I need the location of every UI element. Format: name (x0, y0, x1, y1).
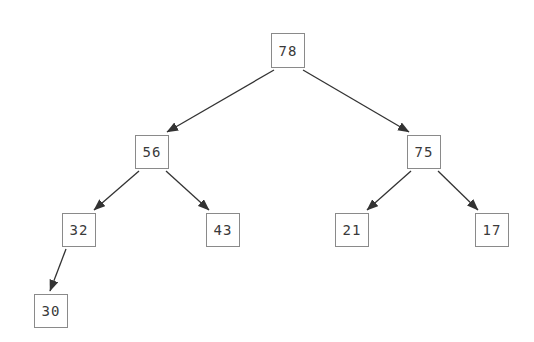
tree-edge-78-to-56 (167, 70, 274, 132)
tree-edge-56-to-32 (94, 171, 139, 210)
tree-node-label: 43 (214, 223, 233, 237)
tree-node-56[interactable]: 56 (135, 135, 169, 169)
tree-node-label: 17 (483, 223, 502, 237)
tree-node-21[interactable]: 21 (335, 213, 369, 247)
edge-layer (0, 0, 534, 342)
tree-node-label: 56 (143, 145, 162, 159)
tree-node-78[interactable]: 78 (271, 33, 305, 68)
tree-node-17[interactable]: 17 (475, 213, 509, 247)
tree-node-75[interactable]: 75 (407, 135, 441, 169)
tree-edge-75-to-21 (367, 171, 411, 210)
tree-node-30[interactable]: 30 (34, 294, 68, 328)
tree-edge-32-to-30 (50, 249, 66, 291)
tree-node-label: 75 (415, 145, 434, 159)
tree-node-label: 30 (42, 304, 61, 318)
tree-node-label: 21 (343, 223, 362, 237)
tree-edge-56-to-43 (166, 171, 209, 210)
tree-edge-75-to-17 (438, 171, 478, 210)
tree-node-label: 32 (70, 223, 89, 237)
tree-node-label: 78 (279, 44, 298, 58)
tree-edge-78-to-75 (303, 70, 409, 132)
tree-edges (50, 70, 478, 291)
tree-diagram-canvas: 7856753243211730 (0, 0, 534, 342)
tree-node-32[interactable]: 32 (62, 213, 96, 247)
tree-node-43[interactable]: 43 (206, 213, 240, 247)
